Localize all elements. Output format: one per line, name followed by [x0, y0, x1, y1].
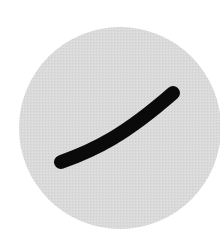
figure-canvas [0, 0, 220, 237]
figure [0, 0, 220, 237]
